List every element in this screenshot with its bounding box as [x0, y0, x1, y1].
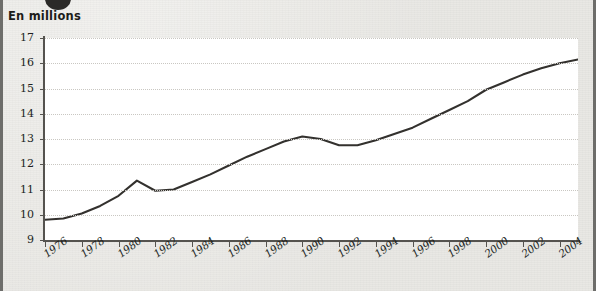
gridline-horizontal: [45, 139, 578, 140]
x-axis-line: [43, 240, 580, 242]
gridline-horizontal: [45, 63, 578, 64]
gridline-horizontal: [45, 114, 578, 115]
y-axis-line: [43, 36, 45, 242]
chart-axis-title: En millions: [8, 9, 81, 23]
plot-area: [45, 38, 578, 240]
gridline-horizontal: [45, 190, 578, 191]
gridline-horizontal: [45, 164, 578, 165]
gridline-horizontal: [45, 89, 578, 90]
gridline-horizontal: [45, 38, 578, 39]
gridline-horizontal: [45, 215, 578, 216]
